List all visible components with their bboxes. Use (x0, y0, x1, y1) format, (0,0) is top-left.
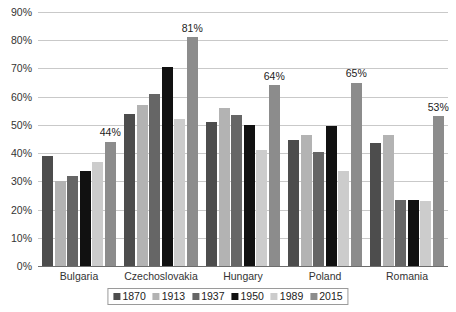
bar[interactable] (219, 108, 230, 266)
bar[interactable] (42, 156, 53, 266)
legend-swatch-icon (232, 293, 239, 300)
legend-swatch-icon (153, 293, 160, 300)
legend-label: 1950 (241, 291, 264, 302)
bar[interactable] (80, 171, 91, 266)
legend-label: 1937 (201, 291, 224, 302)
y-axis-tick-label: 70% (11, 63, 32, 74)
bar[interactable] (370, 143, 381, 266)
legend-label: 2015 (319, 291, 342, 302)
legend-swatch-icon (113, 293, 120, 300)
legend-item[interactable]: 1937 (192, 291, 224, 302)
bar[interactable] (124, 114, 135, 266)
bar[interactable] (288, 140, 299, 266)
bar[interactable] (326, 126, 337, 266)
legend-item[interactable]: 2015 (310, 291, 342, 302)
y-axis-tick-label: 60% (11, 92, 32, 103)
bar[interactable] (206, 122, 217, 266)
bar-set (120, 12, 202, 266)
bar-value-label: 64% (264, 71, 285, 82)
y-axis-tick-label: 0% (17, 261, 32, 272)
bar-value-label: 53% (428, 102, 449, 113)
bar-value-label: 44% (100, 127, 121, 138)
bar[interactable] (383, 135, 394, 266)
bar-groups: 44%81%64%65%53% (38, 12, 448, 266)
y-axis-tick-label: 50% (11, 120, 32, 131)
bar[interactable] (420, 201, 431, 266)
bar-value-label: 81% (182, 23, 203, 34)
bar-set (366, 12, 448, 266)
legend-item[interactable]: 1913 (153, 291, 185, 302)
axis-baseline (38, 266, 448, 267)
x-axis-tick-label: Czechoslovakia (120, 268, 202, 286)
legend-swatch-icon (271, 293, 278, 300)
bar-value-label: 65% (346, 68, 367, 79)
x-axis-tick-label: Romania (366, 268, 448, 286)
y-axis-tick-label: 10% (11, 233, 32, 244)
bar[interactable] (244, 125, 255, 266)
bar[interactable] (67, 176, 78, 266)
legend-swatch-icon (192, 293, 199, 300)
bar[interactable] (92, 162, 103, 266)
bar[interactable] (256, 150, 267, 266)
x-axis: BulgariaCzechoslovakiaHungaryPolandRoman… (38, 268, 448, 286)
bar[interactable] (105, 142, 116, 266)
bar-group: 53% (366, 12, 448, 266)
bar[interactable] (395, 200, 406, 266)
bar[interactable] (338, 171, 349, 266)
bar-set (284, 12, 366, 266)
bar[interactable] (174, 119, 185, 266)
legend-item[interactable]: 1989 (271, 291, 303, 302)
bar-group: 65% (284, 12, 366, 266)
bar[interactable] (55, 181, 66, 266)
y-axis-tick-label: 30% (11, 176, 32, 187)
bar[interactable] (351, 83, 362, 266)
bar-set (38, 12, 120, 266)
legend-label: 1913 (162, 291, 185, 302)
legend-swatch-icon (310, 293, 317, 300)
y-axis-tick-label: 80% (11, 35, 32, 46)
x-axis-tick-label: Hungary (202, 268, 284, 286)
legend-item[interactable]: 1950 (232, 291, 264, 302)
bar-group: 81% (120, 12, 202, 266)
bar-chart: 0%10%20%30%40%50%60%70%80%90% 44%81%64%6… (0, 0, 456, 312)
bar[interactable] (433, 116, 444, 266)
bar[interactable] (187, 37, 198, 266)
y-axis: 0%10%20%30%40%50%60%70%80%90% (0, 0, 36, 312)
bar[interactable] (408, 200, 419, 266)
bar[interactable] (301, 135, 312, 266)
legend: 187019131937195019892015 (107, 288, 348, 305)
bar[interactable] (137, 105, 148, 266)
bar[interactable] (313, 152, 324, 266)
legend-item[interactable]: 1870 (113, 291, 145, 302)
bar[interactable] (162, 67, 173, 266)
legend-label: 1989 (280, 291, 303, 302)
bar[interactable] (149, 94, 160, 266)
x-axis-tick-label: Bulgaria (38, 268, 120, 286)
legend-label: 1870 (122, 291, 145, 302)
y-axis-tick-label: 20% (11, 205, 32, 216)
bar-group: 44% (38, 12, 120, 266)
bar[interactable] (231, 115, 242, 266)
bar-set (202, 12, 284, 266)
bar[interactable] (269, 85, 280, 266)
x-axis-tick-label: Poland (284, 268, 366, 286)
bar-group: 64% (202, 12, 284, 266)
y-axis-tick-label: 90% (11, 7, 32, 18)
y-axis-tick-label: 40% (11, 148, 32, 159)
